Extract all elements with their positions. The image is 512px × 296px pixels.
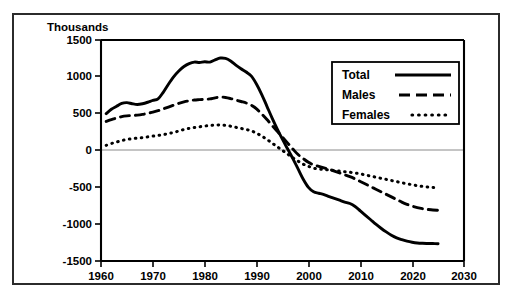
x-tick-label: 2010 — [348, 270, 374, 282]
y-tick-label: 0 — [86, 144, 92, 156]
y-tick-label: 1000 — [66, 70, 92, 82]
y-tick-label: 1500 — [66, 34, 92, 46]
x-tick-label: 1960 — [88, 270, 114, 282]
x-tick-label: 1990 — [244, 270, 270, 282]
chart-legend: Total Males Females — [332, 62, 459, 124]
y-tick-label: 500 — [73, 107, 92, 119]
x-tick-label: 2030 — [451, 270, 477, 282]
y-tick-label: -1500 — [63, 255, 92, 267]
chart-figure-frame: Thousands 1500 1000 500 0 -500 -1000 -15… — [12, 13, 500, 285]
population-change-line-chart: Thousands 1500 1000 500 0 -500 -1000 -15… — [14, 15, 498, 283]
legend-label-total: Total — [342, 68, 370, 82]
x-tick-label: 1970 — [140, 270, 166, 282]
y-axis-tick-labels: 1500 1000 500 0 -500 -1000 -1500 — [63, 34, 92, 267]
legend-label-females: Females — [342, 108, 390, 122]
series-line-females — [106, 125, 438, 188]
x-tick-label: 2020 — [400, 270, 426, 282]
y-axis-title: Thousands — [47, 21, 108, 33]
legend-label-males: Males — [342, 88, 376, 102]
y-tick-label: -500 — [69, 181, 92, 193]
x-tick-label: 1980 — [192, 270, 218, 282]
y-tick-label: -1000 — [63, 218, 92, 230]
x-axis-tick-labels: 1960 1970 1980 1990 2000 2010 2020 2030 — [88, 270, 477, 282]
x-tick-label: 2000 — [296, 270, 322, 282]
